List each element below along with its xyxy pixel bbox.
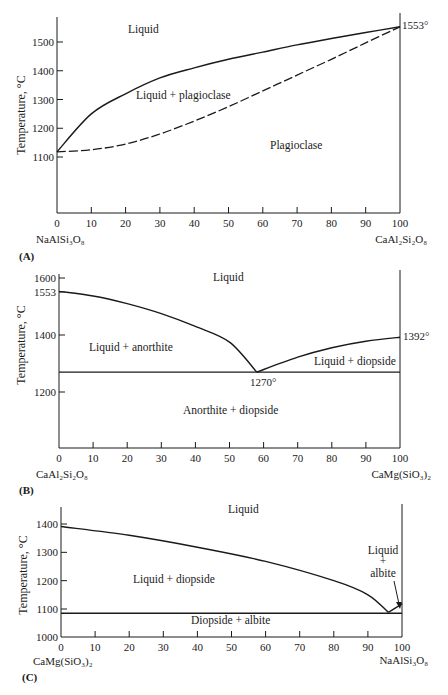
x-tick-label: 40 xyxy=(190,452,202,464)
left-endmember: CaMg(SiO₃)₂ xyxy=(33,655,93,668)
y-axis-title: Temperature, °C xyxy=(14,305,28,384)
panel-tag: (C) xyxy=(22,671,38,684)
region-liquid-diopside: Liquid + diopside xyxy=(314,355,396,368)
right-endmember: CaMg(SiO₃)₂ xyxy=(371,468,431,481)
x-tick-label: 30 xyxy=(158,641,170,653)
x-tick-label: 20 xyxy=(122,452,134,464)
panel-a-y-ticks: 11001200130014001500 xyxy=(32,36,63,163)
melting-point-label: 1553° xyxy=(402,19,428,31)
y-axis-title: Temperature, °C xyxy=(14,75,28,154)
region-plagioclase: Plagioclase xyxy=(270,139,322,152)
y-tick-label: 1600 xyxy=(34,272,57,284)
panel-b-x-ticks: 0102030405060708090100 xyxy=(56,442,409,464)
y-tick-label: 1000 xyxy=(36,631,59,643)
arrow-icon xyxy=(394,581,402,609)
eutectic-temp-label: 1270° xyxy=(250,376,276,388)
region-liquid: Liquid xyxy=(213,271,244,284)
region-liquid: Liquid xyxy=(228,503,259,516)
x-tick-label: 0 xyxy=(54,217,60,229)
x-tick-label: 80 xyxy=(326,217,338,229)
x-tick-label: 0 xyxy=(58,641,64,653)
y-tick-label: 1300 xyxy=(32,94,55,106)
panel-a: 0102030405060708090100 11001200130014001… xyxy=(14,13,428,263)
panel-tag: (B) xyxy=(19,484,34,497)
x-tick-label: 30 xyxy=(154,217,166,229)
x-tick-label: 90 xyxy=(360,452,372,464)
y-tick-label: 1400 xyxy=(36,518,59,530)
x-tick-label: 0 xyxy=(56,452,62,464)
x-tick-label: 40 xyxy=(192,641,204,653)
y-tick-label: 1200 xyxy=(34,386,57,398)
y-tick-label: 1400 xyxy=(32,65,55,77)
x-tick-label: 90 xyxy=(362,641,374,653)
x-tick-label: 60 xyxy=(258,452,270,464)
x-tick-label: 70 xyxy=(292,217,304,229)
panel-c: 0102030405060708090100 10001100120013001… xyxy=(16,503,428,684)
x-tick-label: 20 xyxy=(120,217,132,229)
x-tick-label: 100 xyxy=(394,641,411,653)
panel-c-x-ticks: 0102030405060708090100 xyxy=(58,631,411,653)
y-tick-label: 1100 xyxy=(32,151,54,163)
x-tick-label: 50 xyxy=(224,452,236,464)
y-tick-label: 1200 xyxy=(36,575,59,587)
panel-c-y-ticks: 10001100120013001400 xyxy=(36,518,67,643)
phase-diagram-figure: 0102030405060708090100 11001200130014001… xyxy=(0,0,448,695)
y-axis-title: Temperature, °C xyxy=(16,535,30,614)
panel-tag: (A) xyxy=(19,250,35,263)
left-endmember: CaAl₂Si₂O₈ xyxy=(36,468,88,480)
y-tick-label: 1500 xyxy=(32,36,55,48)
region-diopside-albite: Diopside + albite xyxy=(191,614,270,627)
x-tick-label: 10 xyxy=(90,641,102,653)
x-tick-label: 40 xyxy=(189,217,201,229)
panel-a-x-ticks: 0102030405060708090100 xyxy=(54,207,409,229)
region-liquid-plagioclase: Liquid + plagioclase xyxy=(136,89,231,102)
x-tick-label: 70 xyxy=(292,452,304,464)
diopside-melting-label: 1392° xyxy=(403,330,429,342)
y-tick-label: 1400 xyxy=(34,329,57,341)
x-tick-label: 60 xyxy=(260,641,272,653)
y-tick-label: 1100 xyxy=(36,603,58,615)
x-tick-label: 30 xyxy=(156,452,168,464)
x-tick-label: 70 xyxy=(294,641,306,653)
y-tick-label: 1300 xyxy=(36,546,59,558)
x-tick-label: 50 xyxy=(226,641,238,653)
right-endmember: NaAlSi₃O₈ xyxy=(379,654,428,666)
region-liquid-diopside: Liquid + diopside xyxy=(133,573,215,586)
x-tick-label: 60 xyxy=(257,217,269,229)
x-tick-label: 80 xyxy=(326,452,338,464)
liquid-albite-line2: + xyxy=(380,555,387,567)
x-tick-label: 100 xyxy=(392,452,409,464)
x-tick-label: 10 xyxy=(86,217,98,229)
y-tick-label: 1553 xyxy=(34,286,57,298)
x-tick-label: 80 xyxy=(328,641,340,653)
y-tick-label: 1200 xyxy=(32,122,55,134)
x-tick-label: 10 xyxy=(88,452,100,464)
x-tick-label: 100 xyxy=(392,217,409,229)
panel-b: 0102030405060708090100 1200140015531600 … xyxy=(14,270,431,497)
region-liquid-albite-label: Liquid + albite xyxy=(368,544,399,579)
x-tick-label: 50 xyxy=(223,217,235,229)
left-endmember: NaAlSi₃O₈ xyxy=(36,233,85,245)
liquidus-diopside-curve xyxy=(61,527,388,613)
right-endmember: CaAl₂Si₂O₈ xyxy=(375,233,427,245)
liquid-albite-line3: albite xyxy=(370,567,396,579)
liquidus-anorthite-curve xyxy=(59,291,257,372)
x-tick-label: 90 xyxy=(360,217,372,229)
region-liquid: Liquid xyxy=(128,23,159,36)
panel-a-axes xyxy=(57,13,400,213)
region-liquid-anorthite: Liquid + anorthite xyxy=(89,341,173,354)
x-tick-label: 20 xyxy=(124,641,136,653)
region-anorthite-diopside: Anorthite + diopside xyxy=(183,404,278,417)
